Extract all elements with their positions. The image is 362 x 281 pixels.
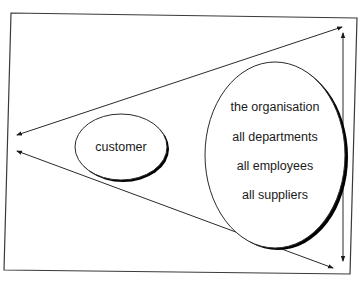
customer-node: customer (75, 114, 169, 182)
organisation-ellipse (205, 62, 345, 248)
organisation-node: the organisation all departments all emp… (205, 62, 348, 250)
customer-focus-diagram: customer the organisation all department… (0, 0, 362, 281)
customer-label: customer (95, 140, 146, 154)
organisation-line-4: all suppliers (242, 188, 308, 202)
organisation-line-2: all departments (232, 130, 317, 144)
organisation-line-1: the organisation (231, 100, 320, 114)
organisation-line-3: all employees (237, 159, 313, 173)
